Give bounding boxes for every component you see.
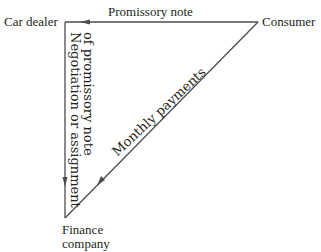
node-finance-company: Finance company bbox=[62, 223, 110, 251]
triangle-diagram-lines bbox=[0, 0, 321, 252]
arrow-down-icon bbox=[63, 177, 68, 187]
edge-label-negotiation: Negotiation or assignment of promissory … bbox=[68, 22, 98, 202]
arrow-down-left-icon bbox=[97, 176, 105, 186]
node-consumer: Consumer bbox=[262, 14, 315, 29]
node-finance-line1: Finance bbox=[62, 223, 110, 237]
node-finance-line2: company bbox=[62, 237, 110, 251]
edge-label-negotiation-line2: of promissory note bbox=[82, 32, 95, 156]
edge-label-promissory-note: Promissory note bbox=[108, 4, 193, 19]
node-car-dealer: Car dealer bbox=[4, 14, 58, 29]
